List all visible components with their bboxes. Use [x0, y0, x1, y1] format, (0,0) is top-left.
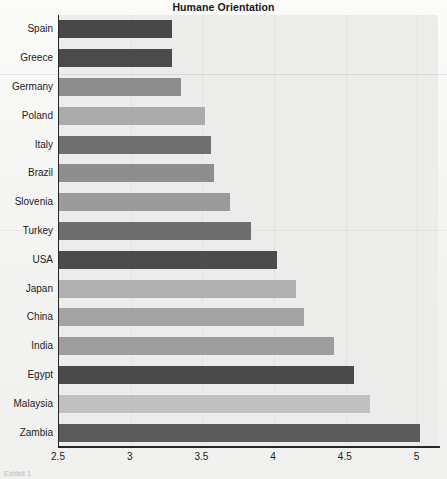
- x-tick-label: 3: [127, 451, 133, 462]
- plot-area: [58, 15, 438, 447]
- bar-row: [59, 274, 438, 303]
- x-axis-line: [58, 446, 440, 448]
- bar[interactable]: [59, 395, 370, 413]
- bar[interactable]: [59, 337, 334, 355]
- bar[interactable]: [59, 164, 214, 182]
- category-label-china: China: [27, 311, 53, 323]
- category-label-italy: Italy: [35, 139, 53, 151]
- bar-row: [59, 188, 438, 217]
- bars-layer: [59, 15, 438, 447]
- category-label-turkey: Turkey: [23, 225, 53, 237]
- chart-root: Humane Orientation SpainGreeceGermanyPol…: [0, 0, 447, 479]
- bar-row: [59, 303, 438, 332]
- bar[interactable]: [59, 280, 296, 298]
- bar[interactable]: [59, 251, 277, 269]
- category-label-japan: Japan: [26, 283, 53, 295]
- x-tick-label: 2.5: [51, 451, 65, 462]
- bar-row: [59, 159, 438, 188]
- category-label-germany: Germany: [12, 81, 53, 93]
- bar-row: [59, 15, 438, 44]
- bar[interactable]: [59, 308, 304, 326]
- category-label-zambia: Zambia: [20, 427, 53, 439]
- bar[interactable]: [59, 107, 205, 125]
- bar[interactable]: [59, 424, 420, 442]
- bar-row: [59, 389, 438, 418]
- category-label-usa: USA: [32, 254, 53, 266]
- bar[interactable]: [59, 193, 230, 211]
- category-label-poland: Poland: [22, 110, 53, 122]
- x-tick-label: 5: [414, 451, 420, 462]
- bottom-caption: Exhibit 1: [4, 470, 31, 477]
- category-label-brazil: Brazil: [28, 167, 53, 179]
- bar-row: [59, 101, 438, 130]
- bar[interactable]: [59, 366, 354, 384]
- category-label-india: India: [31, 340, 53, 352]
- bar-row: [59, 332, 438, 361]
- category-label-greece: Greece: [20, 52, 53, 64]
- bar-row: [59, 418, 438, 447]
- x-tick-label: 4: [270, 451, 276, 462]
- bar-row: [59, 217, 438, 246]
- bar[interactable]: [59, 136, 211, 154]
- category-label-egypt: Egypt: [27, 369, 53, 381]
- bar[interactable]: [59, 222, 251, 240]
- bar-row: [59, 245, 438, 274]
- category-label-slovenia: Slovenia: [15, 196, 53, 208]
- bar-row: [59, 73, 438, 102]
- bar-row: [59, 130, 438, 159]
- bar[interactable]: [59, 20, 172, 38]
- bar[interactable]: [59, 78, 181, 96]
- x-tick-label: 4.5: [338, 451, 352, 462]
- bar-row: [59, 44, 438, 73]
- bar-row: [59, 361, 438, 390]
- bar[interactable]: [59, 49, 172, 67]
- chart-title: Humane Orientation: [0, 1, 447, 13]
- x-tick-label: 3.5: [194, 451, 208, 462]
- category-label-malaysia: Malaysia: [14, 398, 53, 410]
- category-label-spain: Spain: [27, 23, 53, 35]
